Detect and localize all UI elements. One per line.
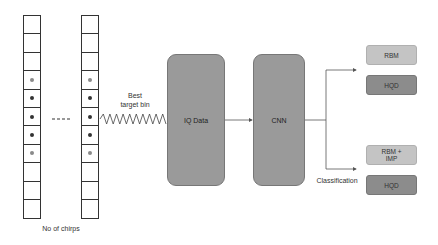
iq-data-label: IQ Data <box>184 117 208 124</box>
classification-label: Classification <box>314 177 360 184</box>
cnn-label: CNN <box>271 117 286 124</box>
chirps-label: No of chirps <box>36 225 86 232</box>
output-rbm-label: RBM <box>384 52 398 59</box>
diagram-canvas: No of chirps Best target bin IQ Data CNN… <box>0 0 438 245</box>
target-bin-label-line2: target bin <box>110 101 160 108</box>
cnn-block: CNN <box>253 54 305 186</box>
output-rbm: RBM <box>366 45 417 65</box>
chirp-column-first <box>23 15 41 219</box>
target-bin-label-line1: Best <box>110 92 160 99</box>
output-rbm-imp-label: RBM + IMP <box>381 148 401 162</box>
output-hqd-bottom-label: HQD <box>384 182 398 189</box>
output-hqd-top-label: HQD <box>384 82 398 89</box>
iq-data-block: IQ Data <box>167 54 225 186</box>
output-rbm-imp: RBM + IMP <box>366 145 417 165</box>
chirp-column-last <box>81 15 99 219</box>
signal-wave-icon <box>100 114 166 124</box>
output-hqd-top: HQD <box>366 75 417 95</box>
output-hqd-bottom: HQD <box>366 175 417 195</box>
